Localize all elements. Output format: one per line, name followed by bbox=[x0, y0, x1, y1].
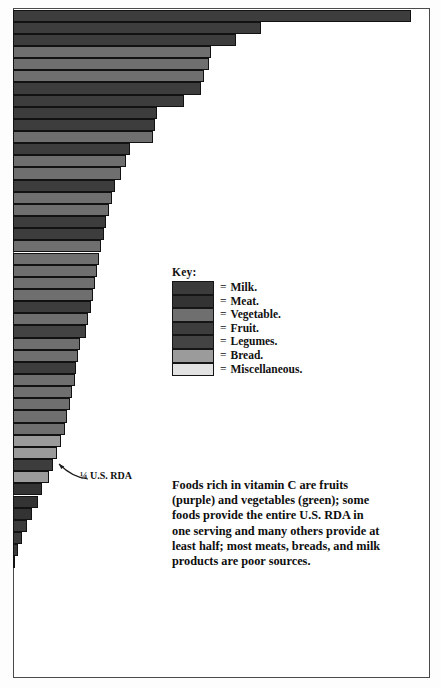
bar bbox=[13, 532, 22, 544]
bar bbox=[13, 362, 76, 374]
legend: Key: =Milk.=Meat.=Vegetable.=Fruit.=Legu… bbox=[172, 266, 322, 376]
bar bbox=[13, 483, 42, 495]
legend-item: =Miscellaneous. bbox=[172, 363, 322, 377]
bar bbox=[13, 204, 109, 216]
bar bbox=[13, 253, 99, 265]
bar bbox=[13, 471, 49, 483]
legend-swatch bbox=[172, 335, 214, 349]
bar bbox=[13, 143, 130, 155]
legend-swatch bbox=[172, 322, 214, 336]
legend-item: =Legumes. bbox=[172, 335, 322, 349]
legend-equals-sign: = bbox=[220, 349, 227, 363]
legend-item: =Bread. bbox=[172, 349, 322, 363]
legend-swatch bbox=[172, 349, 214, 363]
bar bbox=[13, 423, 65, 435]
bar bbox=[13, 22, 261, 34]
bar bbox=[13, 374, 75, 386]
legend-equals-sign: = bbox=[220, 308, 227, 322]
bar bbox=[13, 119, 155, 131]
legend-equals-sign: = bbox=[220, 322, 227, 336]
bar bbox=[13, 544, 18, 556]
legend-label: Bread. bbox=[231, 349, 264, 363]
bar bbox=[13, 46, 211, 58]
legend-item: =Fruit. bbox=[172, 322, 322, 336]
legend-equals-sign: = bbox=[220, 335, 227, 349]
bar bbox=[13, 58, 209, 70]
bar bbox=[13, 410, 67, 422]
legend-swatch bbox=[172, 295, 214, 309]
bar bbox=[13, 459, 53, 471]
legend-label: Fruit. bbox=[231, 322, 259, 336]
bar bbox=[13, 398, 70, 410]
legend-label: Vegetable. bbox=[231, 308, 281, 322]
bar bbox=[13, 34, 236, 46]
bar bbox=[13, 520, 27, 532]
caption-block: Foods rich in vitamin C are fruits (purp… bbox=[172, 478, 384, 569]
bar bbox=[13, 155, 126, 167]
figure-canvas: ¼ U.S. RDA Key: =Milk.=Meat.=Vegetable.=… bbox=[0, 0, 441, 688]
bar bbox=[13, 325, 86, 337]
bar bbox=[13, 350, 78, 362]
bar bbox=[13, 301, 91, 313]
bar bbox=[13, 131, 153, 143]
legend-equals-sign: = bbox=[220, 281, 227, 295]
bar bbox=[13, 447, 57, 459]
bar bbox=[13, 240, 101, 252]
legend-label: Milk. bbox=[231, 281, 258, 295]
bar bbox=[13, 216, 106, 228]
bar bbox=[13, 265, 97, 277]
bar bbox=[13, 289, 93, 301]
legend-title: Key: bbox=[172, 266, 322, 279]
legend-item: =Meat. bbox=[172, 295, 322, 309]
bar bbox=[13, 192, 112, 204]
bar bbox=[13, 338, 80, 350]
legend-swatch bbox=[172, 281, 214, 295]
bar bbox=[13, 386, 72, 398]
legend-label: Legumes. bbox=[231, 335, 278, 349]
bar bbox=[13, 167, 121, 179]
bar bbox=[13, 10, 411, 22]
legend-label: Meat. bbox=[231, 295, 259, 309]
legend-item: =Vegetable. bbox=[172, 308, 322, 322]
legend-equals-sign: = bbox=[220, 295, 227, 309]
legend-swatch bbox=[172, 363, 214, 377]
bar bbox=[13, 82, 201, 94]
caption-text: Foods rich in vitamin C are fruits (purp… bbox=[172, 478, 384, 569]
bar bbox=[13, 95, 184, 107]
bar bbox=[13, 180, 115, 192]
bar bbox=[13, 70, 204, 82]
rda-annotation-label: ¼ U.S. RDA bbox=[80, 470, 132, 482]
bar bbox=[13, 277, 95, 289]
legend-item: =Milk. bbox=[172, 281, 322, 295]
legend-equals-sign: = bbox=[220, 363, 227, 377]
legend-swatch bbox=[172, 308, 214, 322]
bar bbox=[13, 435, 61, 447]
bar bbox=[13, 496, 38, 508]
bar bbox=[13, 107, 157, 119]
legend-items: =Milk.=Meat.=Vegetable.=Fruit.=Legumes.=… bbox=[172, 281, 322, 376]
bar bbox=[13, 556, 15, 568]
bar bbox=[13, 508, 32, 520]
legend-label: Miscellaneous. bbox=[231, 363, 303, 377]
bar bbox=[13, 313, 88, 325]
bar bbox=[13, 228, 104, 240]
